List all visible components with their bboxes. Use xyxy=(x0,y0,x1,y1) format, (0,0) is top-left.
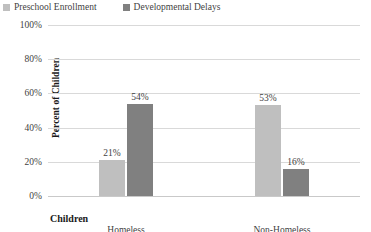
bar-value-label: 53% xyxy=(259,93,276,104)
x-axis-title: Children xyxy=(50,213,88,224)
y-axis-tick-label: 0% xyxy=(2,191,42,201)
gridline-40 xyxy=(48,128,360,129)
bar[interactable]: 53% xyxy=(255,105,281,196)
legend-swatch-developmental-delays xyxy=(123,4,130,11)
legend-label-preschool-enrollment: Preschool Enrollment xyxy=(14,2,97,13)
legend-swatch-preschool-enrollment xyxy=(3,4,10,11)
x-axis-tick-label: Non-Homeless xyxy=(254,225,311,232)
y-axis-tick-label: 100% xyxy=(2,20,42,30)
bar[interactable]: 54% xyxy=(127,104,153,196)
gridline-0 xyxy=(48,196,360,197)
plot-area: 100%80%60%40%20%0%21%54%Homeless53%16%No… xyxy=(48,25,360,196)
gridline-20 xyxy=(48,162,360,163)
bar-value-label: 54% xyxy=(131,92,148,103)
legend-item-developmental-delays: Developmental Delays xyxy=(123,1,221,13)
bar-group: 21%54% xyxy=(99,25,153,196)
bar[interactable]: 16% xyxy=(283,169,309,196)
legend-label-developmental-delays: Developmental Delays xyxy=(134,2,221,13)
x-axis-tick-label: Homeless xyxy=(107,225,144,232)
y-axis-tick-label: 20% xyxy=(2,157,42,167)
bar[interactable]: 21% xyxy=(99,160,125,196)
y-axis-tick-label: 80% xyxy=(2,54,42,64)
chart-legend: Preschool Enrollment Developmental Delay… xyxy=(0,1,220,13)
gridline-60 xyxy=(48,93,360,94)
y-axis-tick-label: 60% xyxy=(2,88,42,98)
bar-value-label: 16% xyxy=(287,157,304,168)
gridline-100 xyxy=(48,25,360,26)
legend-item-preschool-enrollment: Preschool Enrollment xyxy=(3,1,97,13)
gridline-80 xyxy=(48,59,360,60)
bar-value-label: 21% xyxy=(103,148,120,159)
bar-group: 53%16% xyxy=(255,25,309,196)
y-axis-tick-label: 40% xyxy=(2,123,42,133)
